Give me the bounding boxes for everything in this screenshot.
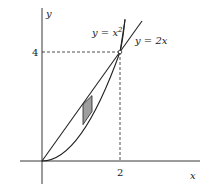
region-diagram: y x 4 2 y = x2 y = 2x (0, 0, 206, 195)
y-axis-label: y (45, 8, 52, 19)
parabola-label: y = x2 (91, 26, 123, 38)
line-y-2x (42, 21, 142, 161)
parabola-y-x2 (42, 20, 125, 161)
x-tick-2: 2 (117, 167, 123, 178)
intersection-point (118, 50, 122, 54)
line-label: y = 2x (134, 35, 168, 46)
shaded-strip (83, 96, 92, 125)
y-tick-4: 4 (32, 47, 38, 58)
x-axis-label: x (190, 170, 196, 181)
